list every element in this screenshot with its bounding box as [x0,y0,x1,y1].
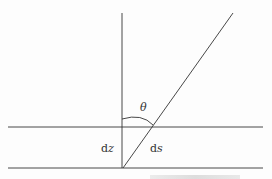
figure-caption-clipped [150,175,240,179]
ds-label: ds [150,142,163,155]
dz-label: dz [101,142,114,155]
diagram-canvas: θ dz ds [0,0,272,179]
theta-label: θ [140,101,147,114]
slant-line [123,13,233,168]
diagram-svg: θ dz ds [0,0,272,179]
angle-arc [122,117,153,125]
